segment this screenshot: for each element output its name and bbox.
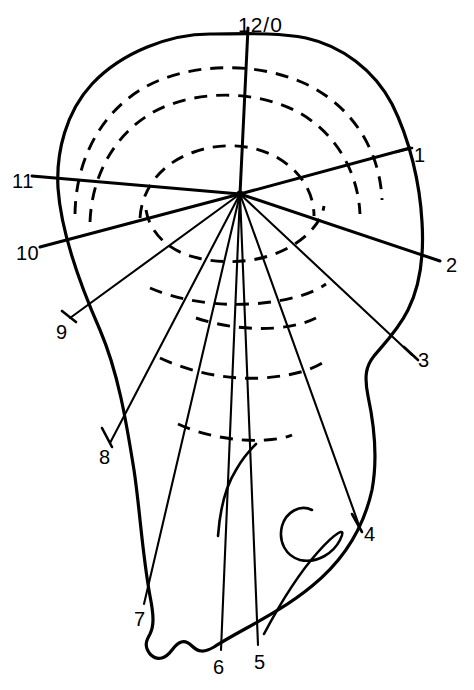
- contour-arc-6: [196, 318, 316, 329]
- ray-3: [240, 194, 412, 355]
- clock-label-5: 5: [254, 652, 266, 672]
- clock-label-10: 10: [16, 243, 39, 263]
- ray-11: [32, 176, 240, 194]
- clock-label-7: 7: [134, 609, 146, 629]
- contour-arc-5: [150, 284, 326, 304]
- outer-outline: [58, 34, 423, 659]
- clock-label-2: 2: [446, 255, 458, 275]
- contour-arc-2: [90, 95, 360, 222]
- clock-label-9: 9: [56, 322, 68, 342]
- ray-1: [240, 148, 410, 194]
- clock-label-1: 1: [414, 145, 426, 165]
- orientation-diagram: [0, 0, 474, 690]
- ray-8: [110, 194, 240, 443]
- clock-label-6: 6: [213, 657, 225, 677]
- ray-4: [240, 194, 360, 528]
- clock-label-12-0: 12/0: [238, 14, 283, 35]
- clock-label-3: 3: [418, 350, 430, 370]
- figure-root: 12/0 1 2 3 4 5 6 7 8 9 10 11: [0, 0, 474, 690]
- clock-label-11: 11: [12, 171, 34, 191]
- tick-8: [102, 428, 112, 447]
- tick-3: [404, 347, 418, 360]
- ray-12: [240, 28, 248, 194]
- ray-5: [240, 194, 258, 645]
- contour-arc-8: [178, 424, 292, 440]
- clock-label-8: 8: [99, 447, 111, 467]
- ray-2: [240, 194, 440, 261]
- hub-center: [237, 191, 244, 198]
- clock-label-4: 4: [364, 524, 376, 544]
- ray-10: [40, 194, 240, 247]
